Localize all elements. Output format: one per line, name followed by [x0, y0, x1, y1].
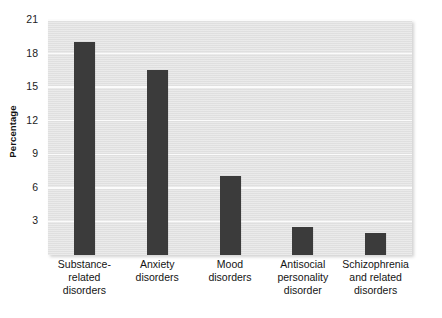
x-axis-category-label-line: Anxiety — [121, 258, 194, 271]
x-axis-category-label: Mooddisorders — [194, 258, 267, 284]
bar — [365, 233, 386, 255]
bars-layer — [48, 20, 412, 255]
y-axis-tick-label: 15 — [0, 81, 38, 92]
y-axis-tick-label: 18 — [0, 48, 38, 59]
x-axis-category-label-line: Substance- — [48, 258, 121, 271]
y-axis-tick-label: 6 — [0, 182, 38, 193]
x-axis-category-label-line: Schizophrenia — [339, 258, 412, 271]
x-axis-category-labels: Substance-relateddisordersAnxietydisorde… — [48, 258, 412, 316]
y-axis-tick-label: 21 — [0, 14, 38, 25]
bar-chart-figure: Percentage 36912151821 Substance-related… — [0, 0, 442, 318]
x-axis-category-label-line: disorders — [339, 284, 412, 297]
x-axis-category-label: Anxietydisorders — [121, 258, 194, 284]
x-axis-category-label-line: disorders — [121, 271, 194, 284]
y-axis-tick-label: 3 — [0, 215, 38, 226]
x-axis-category-label-line: Mood — [194, 258, 267, 271]
x-axis-category-label-line: and related — [339, 271, 412, 284]
x-axis-category-label: Substance-relateddisorders — [48, 258, 121, 296]
y-axis-tick-label: 9 — [0, 148, 38, 159]
bar — [292, 227, 313, 255]
x-axis-category-label-line: disorders — [48, 284, 121, 297]
x-axis-category-label: Schizophreniaand relateddisorders — [339, 258, 412, 296]
x-axis-category-label-line: Antisocial — [266, 258, 339, 271]
bar — [74, 42, 95, 255]
x-axis-category-label-line: personality — [266, 271, 339, 284]
x-axis-category-label-line: disorder — [266, 284, 339, 297]
plot-area — [48, 20, 412, 255]
x-axis-category-label-line: related — [48, 271, 121, 284]
bar — [220, 176, 241, 255]
bar — [147, 70, 168, 255]
y-axis-tick-label: 12 — [0, 115, 38, 126]
y-axis-tick-labels: 36912151821 — [0, 0, 44, 318]
x-axis-category-label: Antisocialpersonalitydisorder — [266, 258, 339, 296]
x-axis-category-label-line: disorders — [194, 271, 267, 284]
